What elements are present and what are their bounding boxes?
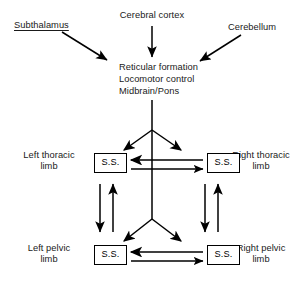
label-subthalamus: Subthalamus (14, 20, 69, 31)
label-reticular-formation-line1: Reticular formation (119, 62, 198, 73)
ss-box-left-pelvic-label: S.S. (101, 250, 119, 259)
locomotor-control-diagram: Subthalamus Cerebral cortex Cerebellum R… (0, 0, 302, 286)
branch-to-right-pelvic (152, 219, 181, 241)
ss-box-right-pelvic-label: S.S. (214, 250, 232, 259)
branch-to-left-pelvic (124, 219, 152, 241)
ss-box-left-thoracic: S.S. (94, 153, 127, 173)
ss-box-left-pelvic: S.S. (94, 245, 127, 265)
label-cerebral-cortex: Cerebral cortex (97, 10, 207, 21)
ss-box-left-thoracic-label: S.S. (101, 158, 119, 167)
arrow-cerebellum-to-reticular (200, 35, 241, 61)
ss-box-right-pelvic: S.S. (207, 245, 240, 265)
arrow-subthalamus-to-reticular (62, 32, 107, 60)
branch-to-left-thoracic (124, 130, 152, 150)
ss-box-right-thoracic: S.S. (207, 153, 240, 173)
label-left-thoracic-limb: Left thoracic limb (10, 150, 88, 173)
ss-box-right-thoracic-label: S.S. (214, 158, 232, 167)
branch-to-right-thoracic (152, 130, 181, 150)
label-cerebellum: Cerebellum (228, 22, 276, 33)
label-midbrain-pons-line3: Midbrain/Pons (119, 86, 179, 97)
label-left-pelvic-limb: Left pelvic limb (10, 243, 88, 266)
label-locomotor-control-line2: Locomotor control (119, 74, 194, 85)
